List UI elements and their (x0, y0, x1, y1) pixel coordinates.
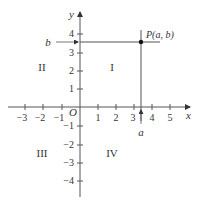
point-p-label: P(a, b) (145, 29, 174, 41)
x-tick-label: −2 (35, 112, 46, 123)
x-tick-label: 4 (150, 112, 155, 123)
y-tick-label: 2 (69, 65, 74, 76)
x-tick-label: 3 (131, 112, 136, 123)
y-tick-label: −2 (63, 139, 74, 150)
y-tick-label: 4 (69, 28, 74, 39)
point-p (139, 40, 143, 44)
coordinate-plane-diagram: −3 −2 −1 1 2 3 4 5 4 3 2 1 −1 −2 −3 −4 x… (0, 0, 203, 204)
quadrant-I-label: I (110, 61, 114, 73)
b-label: b (45, 36, 51, 48)
coordinate-plane-svg: −3 −2 −1 1 2 3 4 5 4 3 2 1 −1 −2 −3 −4 x… (0, 0, 203, 204)
y-axis-label: y (68, 8, 74, 20)
y-tick-label: −4 (63, 175, 74, 186)
quadrant-III-label: III (37, 147, 48, 159)
quadrant-IV-label: IV (106, 147, 118, 159)
origin-label: O (69, 106, 77, 118)
x-tick-label: 1 (96, 112, 101, 123)
quadrant-II-label: II (38, 61, 46, 73)
y-tick-label: −3 (63, 157, 74, 168)
x-axis-label: x (185, 109, 191, 121)
y-tick-label: −1 (63, 120, 74, 131)
y-tick-label: 1 (69, 83, 74, 94)
a-label: a (138, 126, 144, 138)
y-tick-label: 3 (69, 47, 74, 58)
x-tick-labels: −3 −2 −1 1 2 3 4 5 (17, 112, 173, 123)
x-tick-label: 2 (114, 112, 119, 123)
x-tick-label: −3 (17, 112, 28, 123)
x-tick-label: 5 (168, 112, 173, 123)
